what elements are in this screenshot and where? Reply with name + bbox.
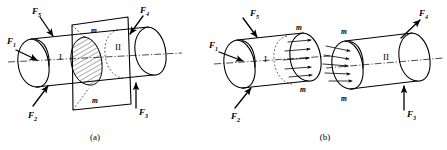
force-label-F2-b: F2 xyxy=(230,111,240,123)
cylinder-right-end-b2 xyxy=(399,33,430,81)
section-mark-top-a: m xyxy=(91,26,97,35)
cylinder-bottom-edge-b1 xyxy=(242,81,308,88)
cylinder-left-rim-b1 xyxy=(242,41,255,68)
force-label-F3-b: F3 xyxy=(406,109,416,121)
plane-guide-top-a xyxy=(72,25,84,37)
force-arrow-F4-a xyxy=(130,16,143,34)
cylinder-right-end-a xyxy=(135,27,166,75)
panel-b-left-body: m m I F1 F5 F2 xyxy=(208,8,330,123)
force-arrow-F4-b xyxy=(401,20,420,38)
plane-guide-bottom-a xyxy=(73,88,89,110)
internal-force-arrow-b1-5 xyxy=(289,75,312,77)
internal-force-arrow-b1-2 xyxy=(285,49,310,51)
internal-force-arrow-b1-3 xyxy=(283,58,309,60)
force-label-F4-a: F4 xyxy=(139,5,149,17)
force-label-F3-a: F3 xyxy=(138,107,148,119)
part-label-I-a: I xyxy=(59,52,62,62)
internal-force-arrow-b2-3 xyxy=(323,64,348,66)
hatched-cross-section-a xyxy=(71,37,102,85)
force-arrow-F2-b xyxy=(235,88,251,108)
part-label-I-b: I xyxy=(264,54,267,64)
force-arrow-F5-a xyxy=(40,17,53,36)
internal-force-arrow-b1-4 xyxy=(285,67,311,69)
figure-canvas: m m I II F1 F5 F2 F4 F3 (a) xyxy=(0,0,447,150)
caption-b: (b) xyxy=(320,132,331,142)
force-arrow-F2-a xyxy=(33,86,48,106)
force-label-F1-a: F1 xyxy=(6,36,16,48)
cylinder-top-edge-b1 xyxy=(237,33,303,40)
force-arrow-F5-b xyxy=(243,18,257,37)
internal-force-arrow-b2-2 xyxy=(324,55,349,59)
section-mark-bottom-b2: m xyxy=(341,94,347,103)
mechanics-section-diagram: m m I II F1 F5 F2 F4 F3 (a) xyxy=(0,0,447,150)
force-label-F1-b: F1 xyxy=(208,40,218,52)
cut-face-rim-b2 xyxy=(350,42,363,69)
part2-hidden-rim-a xyxy=(105,30,123,78)
force-label-F4-b: F4 xyxy=(418,8,428,20)
section-mark-top-b2: m xyxy=(341,27,347,36)
force-label-F5-b: F5 xyxy=(249,8,259,20)
panel-a: m m I II F1 F5 F2 F4 F3 (a) xyxy=(6,5,182,142)
caption-a: (a) xyxy=(90,132,100,142)
force-arrow-F1-b xyxy=(219,52,243,61)
force-arrow-F1-a xyxy=(16,50,37,60)
section-mark-bottom-b1: m xyxy=(300,85,306,94)
internal-force-arrow-b2-1 xyxy=(326,46,350,51)
panel-b-right-body: m m II F4 F3 (b) xyxy=(320,8,443,142)
internal-force-arrow-b1-1 xyxy=(288,40,311,42)
cylinder-left-rim-a xyxy=(36,40,49,67)
part-label-II-a: II xyxy=(115,42,121,52)
section-mark-bottom-a: m xyxy=(92,96,98,105)
part-label-II-b: II xyxy=(383,52,389,62)
internal-force-arrow-b2-4 xyxy=(325,73,350,74)
force-label-F2-a: F2 xyxy=(27,110,37,122)
section-mark-top-b1: m xyxy=(296,23,302,32)
force-label-F5-a: F5 xyxy=(31,6,41,18)
